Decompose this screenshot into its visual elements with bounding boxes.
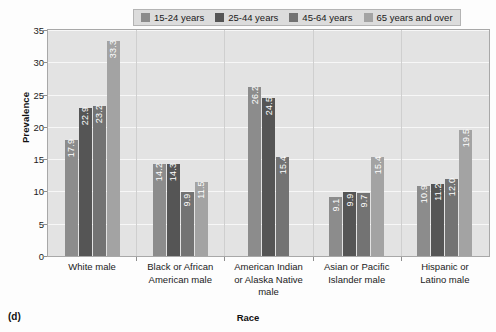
group-separator — [313, 30, 314, 256]
bar-value-label: 14.3 — [168, 163, 178, 181]
y-tick-mark — [43, 191, 47, 192]
y-tick-mark — [43, 30, 47, 31]
x-tick-mark — [136, 257, 137, 261]
x-axis-categories: White maleBlack or AfricanAmerican maleA… — [48, 261, 489, 307]
bar: 14.2 — [153, 164, 166, 256]
y-tick-mark — [43, 127, 47, 128]
bar-value-label: 26.2 — [250, 86, 260, 104]
y-tick-label: 20 — [14, 121, 44, 132]
bar-value-label: 19.5 — [461, 129, 471, 147]
y-tick-label: 15 — [14, 154, 44, 165]
bar: 9.9 — [181, 192, 194, 256]
bar: 11.2 — [431, 184, 444, 256]
bar-value-label: 24.5 — [264, 97, 274, 115]
x-category-label: White male — [42, 261, 142, 274]
x-category-label: Asian or PacificIslander male — [307, 261, 407, 286]
bar-value-label: 11.2 — [433, 183, 443, 201]
bar-value-label: 12.0 — [447, 177, 457, 195]
y-tick-mark — [43, 62, 47, 63]
legend-entry-65-over: 65 years and over — [364, 13, 453, 23]
bar: 17.9 — [65, 140, 78, 256]
x-axis-title: Race — [0, 312, 496, 323]
bar-value-label: 23.2 — [94, 105, 104, 123]
y-tick-label: 5 — [14, 218, 44, 229]
x-tick-mark — [401, 257, 402, 261]
bar: 19.5 — [459, 130, 472, 256]
group-separator — [401, 30, 402, 256]
chart-legend: 15-24 years 25-44 years 45-64 years 65 y… — [133, 9, 461, 26]
bar-value-label: 33.3 — [108, 40, 118, 58]
bar-value-label: 11.5 — [196, 181, 206, 199]
bar-value-label: 17.9 — [66, 139, 76, 157]
group-separator — [224, 30, 225, 256]
panel-letter: (d) — [8, 311, 21, 322]
y-tick-label: 35 — [14, 25, 44, 36]
x-category-label: Hispanic orLatino male — [395, 261, 495, 286]
bars-layer: 17.922.923.233.314.214.39.911.526.224.51… — [48, 30, 489, 256]
x-tick-mark — [224, 257, 225, 261]
bar: 26.2 — [248, 87, 261, 256]
legend-entry-25-44: 25-44 years — [215, 13, 278, 23]
y-tick-mark — [43, 224, 47, 225]
bar: 15.4 — [371, 157, 384, 256]
bar: 9.7 — [357, 193, 370, 256]
bar-value-label: 15.4 — [278, 155, 288, 173]
bar: 11.5 — [195, 182, 208, 256]
y-tick-label: 30 — [14, 57, 44, 68]
legend-label-45-64: 45-64 years — [302, 13, 352, 23]
x-category-label: American Indianor Alaska Nativemale — [218, 261, 318, 299]
y-tick-mark — [43, 95, 47, 96]
bar-value-label: 9.9 — [182, 194, 192, 207]
x-tick-mark — [313, 257, 314, 261]
x-category-label: Black or AfricanAmerican male — [130, 261, 230, 286]
y-tick-label: 10 — [14, 186, 44, 197]
bar: 14.3 — [167, 164, 180, 256]
figure-panel: 15-24 years 25-44 years 45-64 years 65 y… — [0, 0, 496, 332]
bar-value-label: 10.9 — [419, 184, 429, 202]
legend-swatch-25-44 — [215, 13, 224, 22]
bar: 12.0 — [445, 179, 458, 256]
group-separator — [136, 30, 137, 256]
bar: 23.2 — [93, 106, 106, 256]
legend-swatch-45-64 — [289, 13, 298, 22]
bar: 33.3 — [107, 41, 120, 256]
y-tick-label: 25 — [14, 89, 44, 100]
bar-value-label: 14.2 — [154, 163, 164, 181]
bar: 22.9 — [79, 108, 92, 256]
legend-label-65-over: 65 years and over — [377, 13, 453, 23]
bar: 9.9 — [343, 192, 356, 256]
bar-value-label: 9.1 — [331, 199, 341, 212]
bar-value-label: 9.7 — [359, 195, 369, 208]
bar-value-label: 15.4 — [373, 155, 383, 173]
legend-swatch-65-over — [364, 13, 373, 22]
bar: 15.4 — [276, 157, 289, 256]
bar: 9.1 — [329, 197, 342, 256]
legend-label-15-24: 15-24 years — [154, 13, 204, 23]
legend-entry-45-64: 45-64 years — [289, 13, 352, 23]
legend-entry-15-24: 15-24 years — [141, 13, 204, 23]
bar: 24.5 — [262, 98, 275, 256]
y-tick-mark — [43, 256, 47, 257]
y-axis-title: Prevalence — [20, 73, 31, 163]
bar: 10.9 — [417, 186, 430, 256]
bar-value-label: 22.9 — [80, 107, 90, 125]
legend-swatch-15-24 — [141, 13, 150, 22]
y-tick-label: 0 — [14, 251, 44, 262]
legend-label-25-44: 25-44 years — [228, 13, 278, 23]
bar-value-label: 9.9 — [345, 194, 355, 207]
y-tick-mark — [43, 159, 47, 160]
